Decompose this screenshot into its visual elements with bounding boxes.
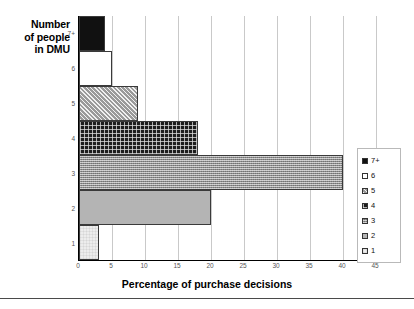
legend-item-3[interactable]: 3 bbox=[362, 213, 397, 228]
bar-chart: Number of people in DMU 7+654321 0510152… bbox=[0, 0, 414, 309]
legend-swatch-icon bbox=[362, 188, 368, 194]
legend-swatch-icon bbox=[362, 248, 368, 254]
bar-3[interactable] bbox=[79, 155, 343, 190]
legend-item-7plus[interactable]: 7+ bbox=[362, 153, 397, 168]
legend-swatch-icon bbox=[362, 158, 368, 164]
y-axis-tick-label: 7+ bbox=[68, 30, 75, 37]
x-axis-ticks: 051015202530354045 bbox=[78, 262, 375, 272]
x-axis-line bbox=[78, 260, 375, 261]
legend-label: 6 bbox=[371, 172, 375, 180]
y-axis-title-line-1: Number bbox=[4, 18, 70, 31]
legend-label: 2 bbox=[371, 232, 375, 240]
x-axis-tick-label: 40 bbox=[338, 262, 345, 269]
x-axis-title: Percentage of purchase decisions bbox=[0, 278, 414, 290]
x-axis-tick-label: 45 bbox=[371, 262, 378, 269]
x-axis-tick-label: 35 bbox=[305, 262, 312, 269]
bar-1[interactable] bbox=[79, 225, 99, 260]
footer-divider bbox=[0, 298, 414, 299]
bar-6[interactable] bbox=[79, 51, 112, 86]
legend-label: 5 bbox=[371, 187, 375, 195]
x-axis-tick-label: 5 bbox=[109, 262, 113, 269]
y-axis-tick-label: 3 bbox=[71, 169, 75, 176]
legend-item-1[interactable]: 1 bbox=[362, 243, 397, 258]
x-axis-tick-label: 15 bbox=[173, 262, 180, 269]
legend-swatch-icon bbox=[362, 233, 368, 239]
legend-swatch-icon bbox=[362, 203, 368, 209]
x-axis-tick-label: 0 bbox=[76, 262, 80, 269]
y-axis-title: Number of people in DMU bbox=[4, 18, 70, 56]
legend: 7+654321 bbox=[357, 148, 401, 263]
y-axis-tick-label: 1 bbox=[71, 239, 75, 246]
legend-item-2[interactable]: 2 bbox=[362, 228, 397, 243]
x-axis-tick-label: 30 bbox=[272, 262, 279, 269]
legend-label: 1 bbox=[371, 247, 375, 255]
legend-swatch-icon bbox=[362, 218, 368, 224]
y-axis-tick-label: 2 bbox=[71, 204, 75, 211]
bar-7plus[interactable] bbox=[79, 16, 105, 51]
y-axis-tick-label: 5 bbox=[71, 100, 75, 107]
y-axis-tick-label: 6 bbox=[71, 65, 75, 72]
x-axis-tick-label: 25 bbox=[239, 262, 246, 269]
x-axis-tick-label: 20 bbox=[206, 262, 213, 269]
bars-group: 7+654321 bbox=[79, 16, 375, 260]
legend-swatch-icon bbox=[362, 173, 368, 179]
legend-label: 7+ bbox=[371, 157, 380, 165]
legend-label: 3 bbox=[371, 217, 375, 225]
plot-area: 7+654321 bbox=[78, 16, 375, 260]
bar-2[interactable] bbox=[79, 190, 211, 225]
y-axis-title-line-3: in DMU bbox=[4, 43, 70, 56]
bar-4[interactable] bbox=[79, 121, 198, 156]
y-axis-title-line-2: of people bbox=[4, 31, 70, 44]
bar-5[interactable] bbox=[79, 86, 138, 121]
legend-item-6[interactable]: 6 bbox=[362, 168, 397, 183]
legend-item-4[interactable]: 4 bbox=[362, 198, 397, 213]
legend-item-5[interactable]: 5 bbox=[362, 183, 397, 198]
y-axis-tick-label: 4 bbox=[71, 134, 75, 141]
x-axis-tick-label: 10 bbox=[140, 262, 147, 269]
legend-label: 4 bbox=[371, 202, 375, 210]
